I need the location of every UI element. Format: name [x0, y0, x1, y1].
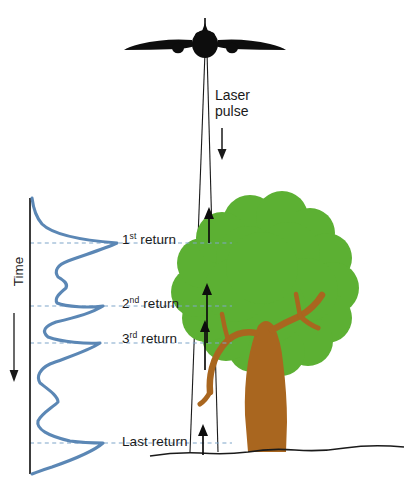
airplane-icon — [124, 18, 286, 58]
laser-pulse-label: Laser pulse — [215, 88, 250, 119]
return-arrow-last — [198, 424, 208, 455]
time-axis — [10, 198, 30, 474]
lidar-return-diagram: Laser pulse 1st return 2nd return 3rd re… — [0, 0, 408, 492]
second-return-label: 2nd return — [122, 296, 179, 311]
lidar-waveform-curve — [32, 198, 117, 474]
laser-pulse-arrow — [218, 128, 227, 160]
third-return-label: 3rd return — [122, 331, 177, 346]
diagram-canvas — [0, 0, 408, 492]
laser-pulse-label-line2: pulse — [215, 104, 250, 120]
first-return-label: 1st return — [122, 232, 176, 247]
time-axis-label: Time — [11, 249, 26, 295]
time-direction-arrow — [10, 313, 19, 382]
last-return-label: Last return — [122, 434, 188, 449]
laser-pulse-label-line1: Laser — [215, 88, 250, 104]
